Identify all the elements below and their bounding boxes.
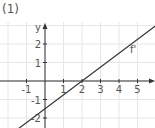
- x-tick-label: 2: [79, 84, 85, 95]
- x-tick-label: 5: [134, 84, 140, 95]
- annotations: f': [130, 44, 136, 55]
- tick-labels: -112345-2-112y: [22, 22, 141, 124]
- y-tick-label: 2: [35, 39, 41, 50]
- x-tick-label: -1: [22, 84, 32, 95]
- y-axis-label: y: [35, 22, 41, 33]
- grid-lines: [0, 22, 155, 128]
- axes: [0, 23, 155, 128]
- function-plot: -112345-2-112y f': [0, 0, 155, 128]
- y-tick-label: 1: [35, 58, 41, 69]
- y-tick-label: -1: [31, 95, 41, 106]
- x-axis-arrow-icon: [149, 79, 155, 84]
- series-label: f': [130, 44, 136, 55]
- x-tick-label: 4: [116, 84, 122, 95]
- x-tick-label: 3: [97, 84, 103, 95]
